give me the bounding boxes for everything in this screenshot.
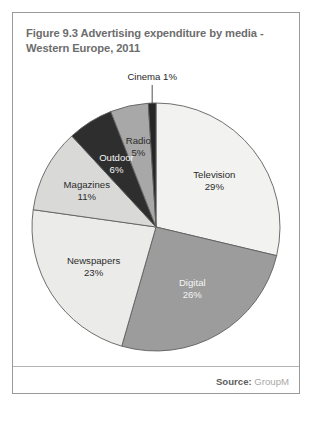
pie-label-newspapers: Newspapers	[67, 255, 121, 266]
pie-label-digital: Digital	[179, 277, 206, 288]
footer-divider	[13, 366, 299, 367]
figure-container: Figure 9.3 Advertising expenditure by me…	[12, 12, 300, 394]
pie-value-newspapers: 23%	[84, 267, 104, 278]
pie-label-magazines: Magazines	[64, 179, 111, 190]
pie-slice-group	[32, 103, 280, 351]
pie-chart-svg: Television29%Digital26%Newspapers23%Maga…	[13, 59, 299, 353]
pie-label-outdoor: Outdoor	[99, 152, 134, 163]
pie-label-radio: Radio	[126, 135, 151, 146]
figure-title: Figure 9.3 Advertising expenditure by me…	[26, 26, 282, 56]
pie-value-digital: 26%	[183, 289, 203, 300]
source-line: Source: GroupM	[216, 376, 289, 387]
source-label: Source:	[216, 376, 252, 387]
pie-chart: Television29%Digital26%Newspapers23%Maga…	[13, 59, 299, 353]
pie-value-outdoor: 6%	[110, 164, 124, 175]
pie-label-cinema: Cinema 1%	[127, 71, 177, 82]
pie-value-television: 29%	[205, 181, 225, 192]
pie-value-magazines: 11%	[78, 191, 97, 202]
source-value: GroupM	[254, 376, 289, 387]
pie-value-radio: 5%	[131, 147, 145, 158]
pie-label-television: Television	[193, 169, 235, 180]
